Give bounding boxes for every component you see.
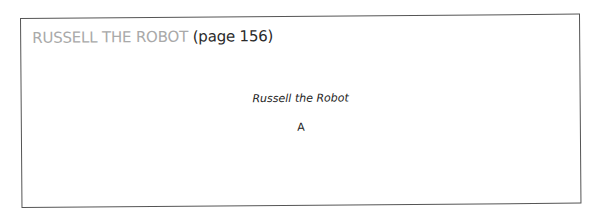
answer-box: RUSSELL THE ROBOT (page 156) Russell the… <box>20 14 581 208</box>
page-reference: (page 156) <box>193 27 274 46</box>
answer-text: A <box>22 119 580 136</box>
section-heading: RUSSELL THE ROBOT (page 156) <box>32 27 273 47</box>
item-caption: Russell the Robot <box>22 90 580 107</box>
section-title: RUSSELL THE ROBOT <box>32 28 188 47</box>
